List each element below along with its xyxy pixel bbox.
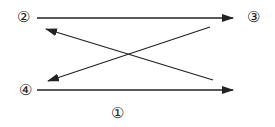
label-3: ③ <box>247 10 260 25</box>
diagram-canvas <box>0 0 275 127</box>
label-2: ② <box>17 10 30 25</box>
label-1: ① <box>111 106 124 121</box>
arrow-diagonal-down-left <box>48 27 210 81</box>
label-4: ④ <box>19 83 32 98</box>
